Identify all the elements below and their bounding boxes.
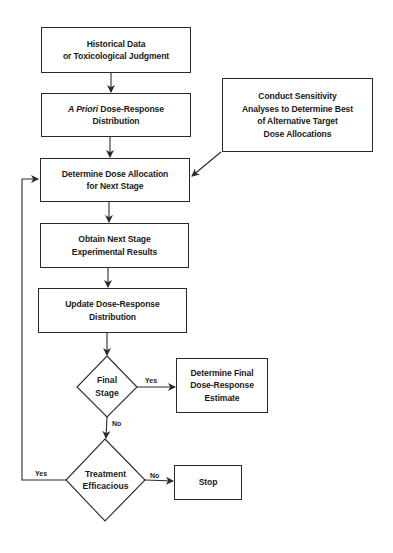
efficacious-label: Treatment Efficacious xyxy=(66,462,145,498)
dose-allocation-box: Determine Dose Allocation for Next Stage xyxy=(40,158,190,202)
final-stage-line1: Final xyxy=(97,374,117,387)
allocation-line1: Determine Dose Allocation xyxy=(62,168,169,181)
prior-line1: A Priori Dose-Response xyxy=(68,103,164,116)
historical-line2: or Toxicological Judgment xyxy=(63,50,169,63)
prior-italic: A Priori xyxy=(68,104,98,114)
efficacious-line2: Efficacious xyxy=(83,480,129,493)
final-yes-label: Yes xyxy=(145,377,157,385)
arrow-final-no xyxy=(106,417,107,438)
a-priori-distribution-box: A Priori Dose-Response Distribution xyxy=(41,93,191,137)
update-line1: Update Dose-Response xyxy=(65,298,159,311)
arrow-sensitivity-to-allocation xyxy=(192,152,221,176)
update-distribution-box: Update Dose-Response Distribution xyxy=(38,288,187,333)
final-stage-line2: Stage xyxy=(95,387,118,400)
sensitivity-line3: of Alternative Target xyxy=(257,115,338,128)
final-no-label: No xyxy=(112,420,121,428)
final-estimate-line3: Estimate xyxy=(204,392,239,405)
stop-box: Stop xyxy=(174,465,242,500)
obtain-results-box: Obtain Next Stage Experimental Results xyxy=(40,223,189,268)
historical-data-box: Historical Data or Toxicological Judgmen… xyxy=(41,27,191,73)
stop-label: Stop xyxy=(199,476,218,489)
obtain-line1: Obtain Next Stage xyxy=(78,233,150,246)
efficacious-no-label: No xyxy=(150,472,159,480)
final-stage-label: Final Stage xyxy=(77,356,137,417)
historical-line1: Historical Data xyxy=(87,38,146,51)
prior-line2: Distribution xyxy=(92,115,139,128)
efficacious-yes-label: Yes xyxy=(35,470,47,478)
sensitivity-line1: Conduct Sensitivity xyxy=(258,90,336,103)
prior-line1-rest: Dose-Response xyxy=(98,104,164,114)
update-line2: Distribution xyxy=(89,311,136,324)
sensitivity-analyses-box: Conduct Sensitivity Analyses to Determin… xyxy=(222,78,373,152)
final-estimate-line1: Determine Final xyxy=(191,367,254,380)
final-estimate-line2: Dose-Response xyxy=(190,379,254,392)
efficacious-line1: Treatment xyxy=(85,468,126,481)
final-estimate-box: Determine Final Dose-Response Estimate xyxy=(176,358,268,413)
allocation-line2: for Next Stage xyxy=(87,180,144,193)
sensitivity-line4: Dose Allocations xyxy=(264,128,332,141)
sensitivity-line2: Analyses to Determine Best xyxy=(242,103,353,116)
obtain-line2: Experimental Results xyxy=(72,246,157,259)
arrow-efficacious-no xyxy=(145,480,173,481)
